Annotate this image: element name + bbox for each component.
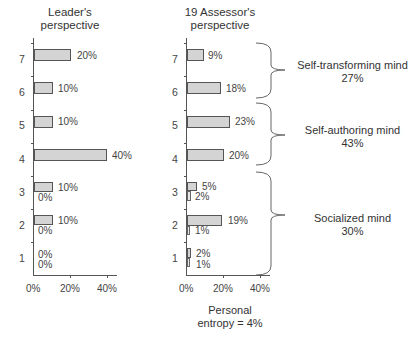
- mind-label-socialized: Socialized mind 30%: [290, 212, 415, 238]
- mind-label-self-transforming: Self-transforming mind 27%: [290, 59, 415, 85]
- mind-pct: 30%: [290, 225, 415, 238]
- mind-pct: 27%: [290, 72, 415, 85]
- mind-name: Socialized mind: [290, 212, 415, 225]
- mind-label-self-authoring: Self-authoring mind 43%: [290, 124, 415, 150]
- brace-socialized: [256, 172, 285, 275]
- brace-group: [0, 0, 419, 341]
- mind-name: Self-transforming mind: [290, 59, 415, 72]
- mind-pct: 43%: [290, 137, 415, 150]
- brace-self-transforming: [256, 43, 285, 98]
- brace-self-authoring: [256, 103, 285, 165]
- mind-name: Self-authoring mind: [290, 124, 415, 137]
